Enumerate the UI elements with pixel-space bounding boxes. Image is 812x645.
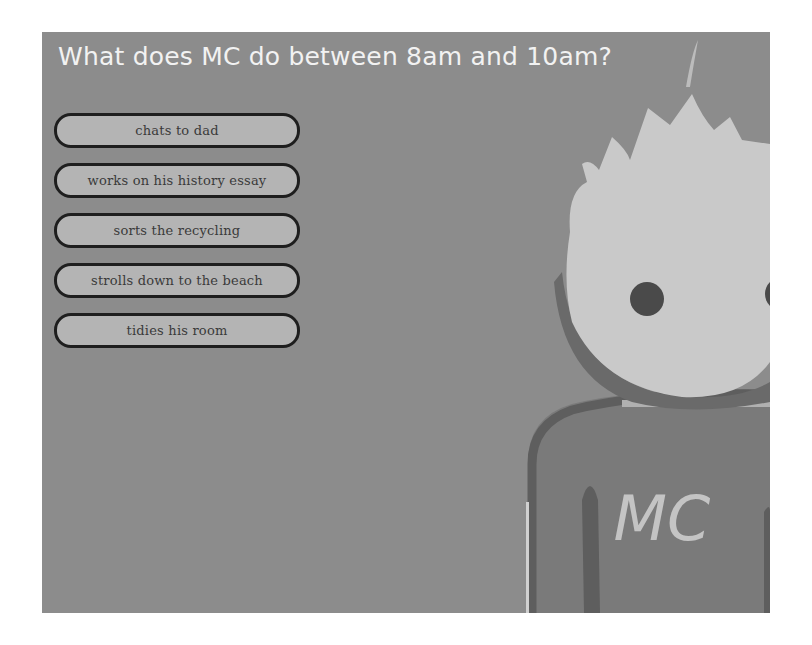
left-eye — [630, 282, 664, 316]
option-label: sorts the recycling — [114, 223, 241, 238]
option-label: tidies his room — [127, 323, 228, 338]
quiz-panel: MC What does MC do between 8am and 10am?… — [42, 32, 770, 613]
head-shape — [566, 94, 770, 397]
option-chats-to-dad[interactable]: chats to dad — [54, 113, 300, 148]
option-label: works on his history essay — [88, 173, 267, 188]
option-strolls-down-to-the-beach[interactable]: strolls down to the beach — [54, 263, 300, 298]
option-label: strolls down to the beach — [91, 273, 263, 288]
option-sorts-the-recycling[interactable]: sorts the recycling — [54, 213, 300, 248]
question-title: What does MC do between 8am and 10am? — [58, 42, 612, 71]
arm-crease — [582, 486, 600, 613]
option-works-on-history-essay[interactable]: works on his history essay — [54, 163, 300, 198]
shirt-letters: MC — [614, 482, 711, 555]
body-highlight-line — [526, 502, 529, 613]
right-arm-crease — [764, 507, 770, 613]
option-tidies-his-room[interactable]: tidies his room — [54, 313, 300, 348]
option-label: chats to dad — [135, 123, 218, 138]
answer-options: chats to dad works on his history essay … — [54, 113, 302, 363]
hair-spike — [686, 40, 698, 87]
